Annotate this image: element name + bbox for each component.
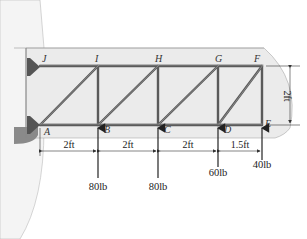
span-label-bc: 2ft <box>122 139 133 150</box>
node-label-d: D <box>223 124 232 135</box>
load-label-e: 40lb <box>253 159 272 170</box>
span-label-cd: 2ft <box>182 139 193 150</box>
truss-diagram: J I H G F A B C D E 2ft 2ft 2ft 2ft 1.5f… <box>0 0 307 239</box>
node-label-g: G <box>215 53 222 64</box>
node-label-c: C <box>164 124 171 135</box>
node-label-j: J <box>42 53 47 64</box>
node-label-h: H <box>154 53 163 64</box>
span-label-ab: 2ft <box>63 139 74 150</box>
load-label-b: 80lb <box>89 181 108 192</box>
node-label-e: E <box>264 118 271 129</box>
node-label-f: F <box>253 53 261 64</box>
span-label-de: 1.5ft <box>231 139 250 150</box>
node-label-a: A <box>43 126 51 137</box>
height-dimension-label: 2ft <box>282 90 293 101</box>
node-label-i: I <box>94 53 99 64</box>
node-label-b: B <box>104 124 110 135</box>
load-label-d: 60lb <box>209 167 228 178</box>
load-label-c: 80lb <box>149 181 168 192</box>
